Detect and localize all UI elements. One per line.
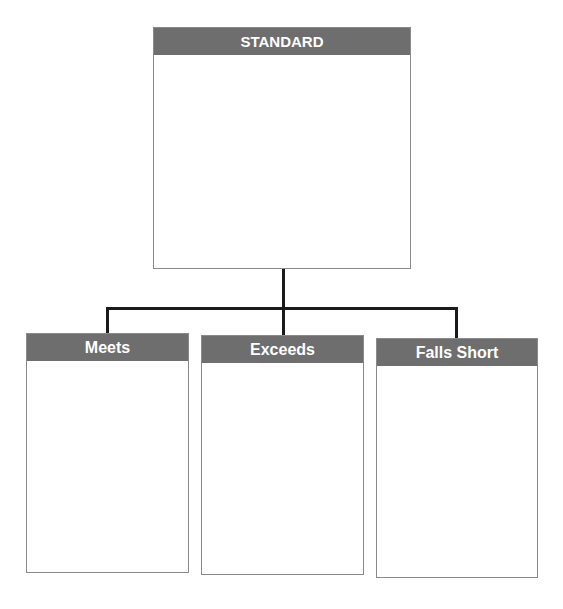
connector-trunk [282, 267, 285, 309]
connector-falls-short [455, 307, 458, 339]
exceeds-box: Exceeds [201, 335, 364, 575]
falls-short-header: Falls Short [377, 339, 537, 366]
meets-box: Meets [26, 333, 189, 573]
connector-meets [106, 307, 109, 334]
standard-box: STANDARD [153, 27, 411, 269]
falls-short-box: Falls Short [376, 338, 538, 578]
connector-exceeds [282, 307, 285, 335]
meets-header: Meets [27, 334, 188, 361]
standard-header: STANDARD [154, 28, 410, 55]
exceeds-header: Exceeds [202, 336, 363, 363]
